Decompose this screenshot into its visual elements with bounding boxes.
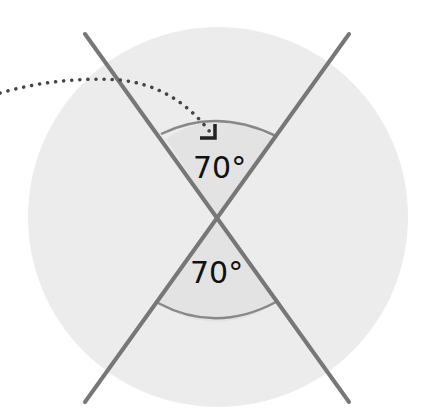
top-angle-label: 70° [193, 150, 246, 185]
bottom-angle-label: 70° [190, 255, 243, 290]
vertical-angles-diagram: 70° 70° [0, 0, 424, 418]
